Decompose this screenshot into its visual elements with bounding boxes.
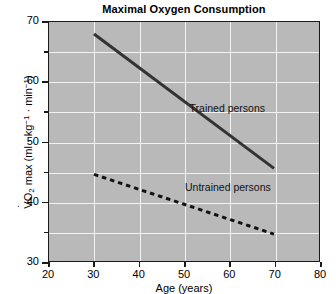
series-line-trained-persons [94,34,274,168]
series-annotation: Untrained persons [185,181,271,193]
x-axis-tick [229,262,231,267]
x-axis-label: Age (years) [48,282,320,294]
x-axis-tick [320,262,322,267]
y-tick-label: 70 [15,14,39,26]
series-annotation: Trained persons [190,102,265,114]
y-axis-label-sup-1: −1 [22,116,31,125]
y-axis-label-mid: · min [22,88,34,116]
y-axis-label-sub-2: 2 [27,188,36,192]
x-axis-tick [275,262,277,267]
y-axis-label: VO2 max (ml · kg−1 · min−1) [22,47,36,237]
y-tick-label: 30 [15,255,39,267]
x-tick-label: 20 [33,268,63,280]
x-axis-tick [48,262,50,267]
chart-title: Maximal Oxygen Consumption [48,2,320,16]
plot-area: Trained personsUntrained persons [48,21,320,262]
x-tick-label: 30 [78,268,108,280]
x-tick-label: 80 [305,268,335,280]
y-axis-label-symbol: V [22,201,34,208]
y-axis-tick-major [42,142,48,144]
y-axis-tick-major [42,262,48,264]
x-tick-label: 60 [214,268,244,280]
x-tick-label: 40 [124,268,154,280]
x-tick-label: 50 [169,268,199,280]
y-axis-tick-minor [44,232,48,234]
y-axis-tick-major [42,81,48,83]
y-axis-tick-minor [44,172,48,174]
x-axis-tick [93,262,95,267]
y-axis-tick-minor [44,51,48,53]
y-axis-tick-major [42,21,48,23]
x-axis-tick [184,262,186,267]
data-series-layer [49,22,319,261]
y-axis-label-sup-2: −1 [22,79,31,88]
y-axis-label-close: ) [22,75,34,79]
y-axis-tick-minor [44,111,48,113]
x-axis-tick [139,262,141,267]
x-tick-label: 70 [260,268,290,280]
y-axis-tick-major [42,202,48,204]
y-axis-label-rest: max (ml · kg [22,125,34,189]
